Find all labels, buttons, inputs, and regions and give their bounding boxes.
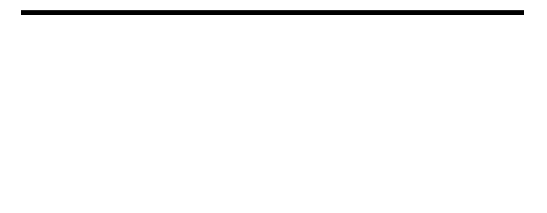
grid-divider xyxy=(21,11,524,15)
quote-falls-puzzle xyxy=(21,10,524,15)
